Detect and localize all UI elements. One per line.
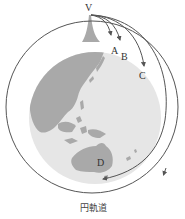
orbit-diagram <box>0 0 185 219</box>
orbit-arrow-icon <box>164 168 167 175</box>
label-c: C <box>139 71 146 81</box>
earth-globe <box>29 15 161 184</box>
label-d: D <box>97 158 104 168</box>
label-v: V <box>85 3 92 13</box>
label-b: B <box>121 52 128 62</box>
mountain-peak <box>82 15 100 42</box>
orbit-caption: 円軌道 <box>80 201 107 214</box>
label-a: A <box>111 46 118 56</box>
